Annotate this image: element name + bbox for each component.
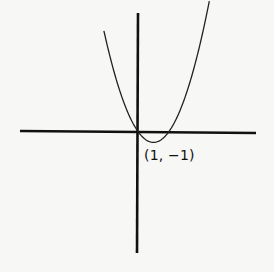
plot-svg <box>0 0 274 272</box>
vertex-label: (1, −1) <box>144 147 195 163</box>
y-axis <box>137 13 138 253</box>
parabola-curve <box>104 1 209 142</box>
graph-canvas: (1, −1) <box>0 0 274 272</box>
